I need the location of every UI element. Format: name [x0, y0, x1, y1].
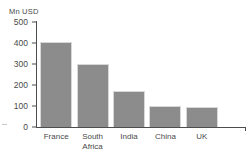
y-axis-tick-mark — [32, 85, 37, 86]
bar-slot — [186, 22, 218, 127]
y-axis-tick-label: 200 — [14, 81, 28, 90]
y-axis-line — [36, 21, 37, 128]
y-axis-tick-mark — [32, 127, 37, 128]
bars-container — [38, 22, 220, 127]
x-axis-end-tick — [245, 127, 246, 131]
bar — [40, 42, 72, 127]
y-axis-tick-mark — [32, 22, 37, 23]
x-axis-category-label: South Africa — [74, 132, 110, 152]
bar — [77, 64, 109, 127]
y-axis-tick-label: 100 — [14, 102, 28, 111]
x-axis-category-label: China — [147, 132, 183, 142]
y-axis-tick-mark — [32, 106, 37, 107]
bar-chart: Mn USD 0100200300400500 FranceSouth Afri… — [0, 0, 252, 163]
y-axis-unit-label: Mn USD — [9, 7, 39, 16]
bar — [149, 106, 181, 127]
y-axis-tick-label: 0 — [23, 123, 28, 132]
y-axis-tick-label: 300 — [14, 60, 28, 69]
y-axis-tick-mark — [32, 64, 37, 65]
bar-slot — [40, 22, 72, 127]
bar — [113, 91, 145, 127]
x-axis-line — [36, 127, 246, 128]
bar-slot — [149, 22, 181, 127]
x-axis-category-label: France — [38, 132, 74, 142]
y-axis-tick-label: 400 — [14, 39, 28, 48]
y-axis-tick-mark — [32, 43, 37, 44]
bar — [186, 107, 218, 127]
bar-slot — [113, 22, 145, 127]
y-axis-tick-labels: 0100200300400500 — [0, 22, 28, 127]
y-axis-tick-label: 500 — [14, 18, 28, 27]
x-axis-category-label: UK — [184, 132, 220, 142]
bar-slot — [77, 22, 109, 127]
x-axis-category-label: India — [111, 132, 147, 142]
